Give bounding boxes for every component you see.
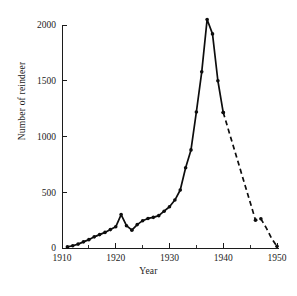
data-point-marker bbox=[141, 219, 145, 223]
data-point-marker bbox=[275, 245, 279, 249]
data-point-marker bbox=[200, 70, 204, 74]
data-point-marker bbox=[114, 225, 118, 229]
data-point-marker bbox=[162, 209, 166, 213]
series-line bbox=[67, 19, 223, 246]
data-point-marker bbox=[135, 223, 139, 227]
data-point-marker bbox=[87, 238, 91, 242]
x-tick-label: 1920 bbox=[106, 253, 125, 263]
data-point-marker bbox=[259, 217, 263, 221]
x-tick-label: 1910 bbox=[53, 253, 72, 263]
x-tick-label: 1950 bbox=[268, 253, 287, 263]
data-point-marker bbox=[76, 242, 80, 246]
data-point-marker bbox=[189, 148, 193, 152]
x-tick-label: 1930 bbox=[160, 253, 179, 263]
data-point-marker bbox=[71, 244, 75, 248]
data-point-marker bbox=[152, 216, 156, 220]
data-series-layer bbox=[67, 19, 277, 246]
data-point-marker bbox=[216, 79, 220, 83]
data-point-marker bbox=[146, 217, 150, 221]
data-point-marker bbox=[184, 166, 188, 170]
data-point-marker bbox=[92, 235, 96, 239]
y-axis-title: Number of reindeer bbox=[17, 31, 27, 171]
data-point-marker bbox=[221, 111, 225, 115]
y-tick-label: 1000 bbox=[37, 132, 56, 142]
data-point-marker bbox=[119, 213, 123, 217]
chart-figure: Number of reindeer Year 0500100015002000… bbox=[0, 0, 297, 296]
data-point-marker bbox=[254, 218, 258, 222]
data-point-markers bbox=[66, 18, 279, 249]
data-point-marker bbox=[211, 32, 215, 36]
y-tick-label: 0 bbox=[51, 243, 56, 253]
x-axis-ticks: 19101920193019401950 bbox=[53, 243, 287, 263]
data-point-marker bbox=[82, 240, 86, 244]
data-point-marker bbox=[168, 205, 172, 209]
data-point-marker bbox=[109, 228, 113, 232]
y-tick-label: 1500 bbox=[37, 76, 56, 86]
data-point-marker bbox=[178, 188, 182, 192]
y-tick-label: 500 bbox=[42, 188, 57, 198]
data-point-marker bbox=[157, 214, 161, 218]
y-tick-label: 2000 bbox=[37, 20, 56, 30]
series-line-estimated bbox=[223, 113, 277, 247]
data-point-marker bbox=[125, 224, 129, 228]
data-point-marker bbox=[103, 231, 107, 235]
data-point-marker bbox=[195, 110, 199, 114]
x-tick-label: 1940 bbox=[214, 253, 233, 263]
data-point-marker bbox=[173, 198, 177, 202]
x-axis-title: Year bbox=[0, 266, 297, 276]
line-chart-plot: 0500100015002000 19101920193019401950 bbox=[0, 0, 297, 296]
data-point-marker bbox=[98, 233, 102, 237]
data-point-marker bbox=[66, 245, 70, 249]
data-point-marker bbox=[130, 228, 134, 232]
data-point-marker bbox=[205, 18, 209, 22]
